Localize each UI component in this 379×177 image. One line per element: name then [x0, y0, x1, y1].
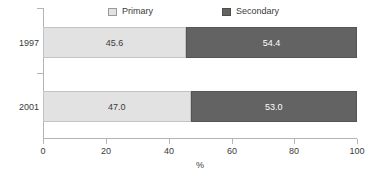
legend-swatch-secondary-icon	[222, 8, 231, 16]
legend-item-primary[interactable]: Primary	[108, 7, 153, 16]
legend-label-secondary: Secondary	[236, 7, 279, 16]
x-axis-tick-80	[294, 139, 295, 144]
bar-segment-1997-primary[interactable]: 45.6	[43, 27, 186, 58]
x-axis-tick-0	[43, 139, 44, 144]
bar-value-2001-primary: 47.0	[108, 102, 126, 112]
bar-value-1997-primary: 45.6	[106, 38, 124, 48]
bar-segment-2001-secondary[interactable]: 53.0	[191, 91, 357, 122]
bar-row-1997: 45.6 54.4	[43, 27, 357, 58]
x-axis-line	[43, 138, 357, 139]
bar-segment-1997-secondary[interactable]: 54.4	[186, 27, 357, 58]
x-axis-tick-20	[106, 139, 107, 144]
x-axis-title: %	[196, 160, 204, 170]
x-axis-label-40: 40	[164, 146, 174, 156]
bar-segment-2001-primary[interactable]: 47.0	[43, 91, 191, 122]
bar-value-2001-secondary: 53.0	[265, 102, 283, 112]
x-axis-label-80: 80	[289, 146, 299, 156]
category-label-1997: 1997	[5, 38, 39, 48]
x-axis-label-60: 60	[227, 146, 237, 156]
stacked-bar-chart: Primary Secondary 1997 2001 45.6 54.4 47…	[0, 0, 379, 177]
x-axis-tick-100	[357, 139, 358, 144]
x-axis-tick-40	[169, 139, 170, 144]
y-axis-tick-top	[37, 8, 43, 9]
legend-item-secondary[interactable]: Secondary	[222, 7, 279, 16]
x-axis-label-0: 0	[40, 146, 45, 156]
legend-swatch-primary-icon	[108, 8, 117, 16]
legend-label-primary: Primary	[122, 7, 153, 16]
x-axis-label-100: 100	[349, 146, 364, 156]
x-axis-label-20: 20	[101, 146, 111, 156]
x-axis-tick-60	[232, 139, 233, 144]
y-axis-tick-mid	[37, 73, 43, 74]
bar-row-2001: 47.0 53.0	[43, 91, 357, 122]
chart-legend: Primary Secondary	[0, 7, 379, 21]
category-label-2001: 2001	[5, 102, 39, 112]
bar-value-1997-secondary: 54.4	[263, 38, 281, 48]
